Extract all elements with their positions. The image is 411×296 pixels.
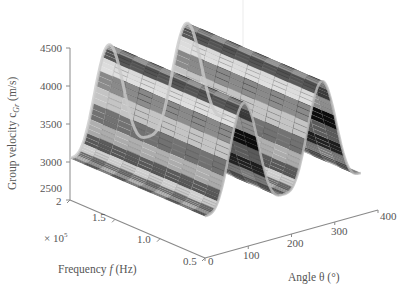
z-tick-label: 4500: [40, 43, 62, 54]
surface-plot-figure: Group velocity cGr (m/s) 4500 4000 3500 …: [0, 0, 411, 296]
z-tick-label: 3500: [40, 119, 62, 130]
frequency-axis-label: Frequency f (Hz): [58, 264, 137, 276]
angle-tick-label: 300: [331, 226, 348, 237]
z-tick-label: 4000: [40, 81, 62, 92]
angle-tick-label: 100: [243, 250, 260, 261]
z-tick-label: 2500: [40, 183, 62, 194]
z-axis-label: Group velocity cGr (m/s): [6, 77, 21, 190]
frequency-multiplier: × 105: [44, 232, 67, 244]
angle-tick-label: 0: [208, 256, 214, 267]
frequency-tick-label: 0.5: [183, 256, 197, 267]
z-tick-label: 3000: [40, 157, 62, 168]
frequency-tick-label: 1.5: [92, 212, 106, 223]
frequency-tick-label: 2: [56, 196, 62, 207]
frequency-tick-label: 1.0: [137, 234, 151, 245]
angle-tick-label: 400: [380, 211, 397, 222]
angle-axis-label: Angle θ (°): [288, 272, 340, 284]
angle-tick-label: 200: [287, 238, 304, 249]
